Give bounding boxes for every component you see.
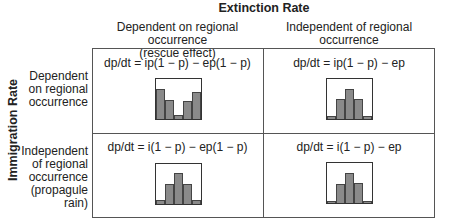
row-header-line: occurrence xyxy=(29,96,88,109)
histogram-bar xyxy=(354,99,363,119)
histogram-bar xyxy=(165,100,174,119)
equation-independent-dependent: dp/dt = i(1 − p) − ep(1 − p) xyxy=(92,140,263,154)
histogram-bar xyxy=(165,184,174,204)
row-header-independent: Independent of regional occurrence (prop… xyxy=(21,145,88,210)
row-header-dependent: Dependent on regional occurrence xyxy=(29,70,88,109)
histogram-unimodal xyxy=(326,162,373,204)
histogram-bar xyxy=(174,115,183,119)
column-header-independent: Independent of regional occurrence xyxy=(263,21,435,47)
histogram-bar xyxy=(174,173,183,204)
histogram-bar xyxy=(327,116,336,119)
histogram-unimodal xyxy=(155,163,202,205)
histogram-bar xyxy=(345,89,354,119)
histogram-bar xyxy=(336,184,345,203)
equation-independent-independent: dp/dt = i(1 − p) − ep xyxy=(263,140,435,154)
immigration-rate-label: Immigration Rate xyxy=(6,55,20,205)
histogram-bar xyxy=(183,184,192,204)
extinction-rate-title: Extinction Rate xyxy=(0,1,450,15)
column-header-line: Independent of regional occurrence xyxy=(263,21,435,47)
histogram-bar xyxy=(156,89,165,119)
histogram-bar xyxy=(192,92,201,119)
histogram-bar xyxy=(363,201,372,203)
histogram-bar xyxy=(354,183,363,203)
histogram-bar xyxy=(327,201,336,203)
histogram-bar xyxy=(156,200,165,204)
histogram-bar xyxy=(183,101,192,119)
equation-dependent-dependent: dp/dt = ip(1 − p) − ep(1 − p) xyxy=(92,56,263,70)
equation-dependent-independent: dp/dt = ip(1 − p) − ep xyxy=(263,56,435,70)
histogram-bar xyxy=(345,173,354,203)
row-header-line: rain) xyxy=(21,197,88,210)
histogram-u-shape xyxy=(155,78,202,120)
column-header-line: Dependent on regional occurrence xyxy=(92,21,263,47)
histogram-bar xyxy=(336,99,345,119)
row-divider xyxy=(92,133,435,134)
histogram-bar xyxy=(192,200,201,204)
histogram-unimodal xyxy=(326,78,373,120)
histogram-bar xyxy=(363,116,372,119)
